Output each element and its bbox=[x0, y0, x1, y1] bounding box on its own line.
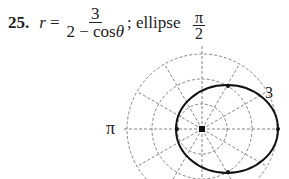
angle-label-pi-half: π 2 bbox=[193, 10, 205, 41]
pi-half-denominator: 2 bbox=[195, 26, 203, 41]
radial-label-3: 3 bbox=[265, 84, 273, 102]
angle-label-pi: π bbox=[106, 118, 115, 139]
pi-half-numerator: π bbox=[193, 10, 205, 26]
pole-marker bbox=[199, 126, 205, 132]
polar-grid bbox=[122, 46, 277, 179]
polar-graph bbox=[0, 0, 289, 179]
